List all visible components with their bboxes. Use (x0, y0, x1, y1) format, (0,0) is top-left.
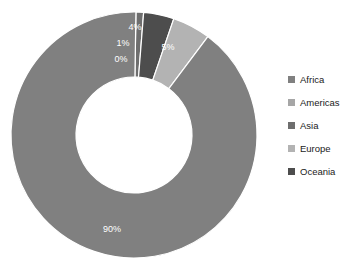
legend-item-asia[interactable]: Asia (288, 120, 361, 131)
legend-swatch-icon (288, 145, 295, 152)
legend-swatch-icon (288, 99, 295, 106)
donut-slice-africa[interactable] (11, 12, 257, 258)
donut-plot-area: 90%0%1%5%4% (0, 0, 276, 270)
legend-swatch-icon (288, 168, 295, 175)
legend-label: Europe (300, 143, 331, 154)
legend-label: Africa (300, 74, 324, 85)
legend-label: Asia (300, 120, 318, 131)
legend-item-oceania[interactable]: Oceania (288, 166, 361, 177)
legend-label: Oceania (300, 166, 335, 177)
chart-legend: AfricaAmericasAsiaEuropeOceania (288, 74, 361, 189)
donut-chart: 90%0%1%5%4% AfricaAmericasAsiaEuropeOcea… (0, 0, 361, 270)
legend-swatch-icon (288, 122, 295, 129)
legend-swatch-icon (288, 76, 295, 83)
donut-svg (0, 0, 276, 270)
legend-item-americas[interactable]: Americas (288, 97, 361, 108)
legend-item-africa[interactable]: Africa (288, 74, 361, 85)
legend-label: Americas (300, 97, 340, 108)
legend-item-europe[interactable]: Europe (288, 143, 361, 154)
